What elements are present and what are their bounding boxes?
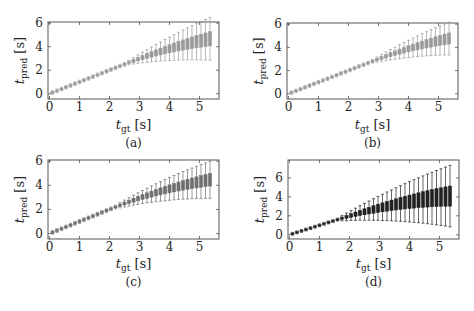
box [114, 206, 117, 208]
box [372, 206, 375, 213]
box [136, 196, 139, 200]
box [327, 222, 330, 224]
box [367, 207, 370, 214]
box [344, 71, 347, 73]
box [114, 67, 117, 69]
x-axis-label: tgt [s] [355, 117, 391, 134]
box [299, 88, 302, 90]
x-tick-label: 4 [406, 240, 414, 254]
box [73, 222, 76, 224]
x-tick-label: 4 [405, 100, 413, 114]
box [411, 44, 414, 51]
box [105, 70, 108, 72]
x-axis-label: tgt [s] [116, 117, 152, 134]
box [69, 85, 72, 87]
box [339, 73, 342, 75]
box [380, 56, 383, 59]
box [394, 199, 397, 210]
x-tick-label: 0 [285, 100, 293, 114]
box [195, 177, 198, 188]
box [204, 33, 207, 47]
box [100, 212, 103, 214]
x-tick-label: 1 [76, 100, 84, 114]
x-tick-label: 5 [436, 240, 444, 254]
panel-caption: (d) [365, 275, 382, 289]
box [51, 231, 54, 233]
box [412, 194, 415, 208]
box [51, 92, 54, 94]
x-tick-label: 3 [136, 240, 144, 254]
box [318, 225, 321, 227]
box [330, 76, 333, 78]
box [420, 41, 423, 49]
box [425, 40, 428, 48]
panel-d: 0123450246tgt [s]tpred [s](d) [252, 160, 459, 289]
box [123, 202, 126, 205]
box [118, 204, 121, 206]
box [127, 62, 130, 64]
box [190, 178, 193, 189]
x-tick-label: 3 [376, 240, 384, 254]
box [69, 224, 72, 226]
box [362, 64, 365, 66]
box [64, 226, 67, 228]
box [417, 193, 420, 208]
box [87, 77, 90, 79]
x-tick-label: 0 [286, 240, 294, 254]
panel-caption: (c) [125, 275, 141, 289]
box [96, 213, 99, 215]
box [109, 208, 112, 210]
x-tick-label: 3 [375, 100, 383, 114]
box [154, 50, 157, 56]
y-tick-label: 4 [35, 40, 43, 54]
x-tick-label: 5 [196, 240, 204, 254]
panel-caption: (a) [125, 136, 142, 150]
box [150, 191, 153, 197]
x-tick-label: 2 [346, 240, 354, 254]
y-tick-label: 6 [35, 154, 43, 168]
box [168, 185, 171, 193]
panel-b: 0123450246tgt [s]tpred [s](b) [251, 17, 458, 150]
box [172, 183, 175, 192]
box [190, 37, 193, 49]
box [105, 210, 108, 212]
box [421, 192, 424, 208]
box [443, 34, 446, 45]
x-tick-label: 1 [316, 240, 324, 254]
box [385, 201, 388, 211]
box [141, 195, 144, 200]
box [438, 35, 441, 45]
box [353, 67, 356, 69]
y-tick-label: 4 [275, 190, 283, 204]
box [429, 38, 432, 47]
x-tick-label: 4 [166, 100, 174, 114]
box [399, 198, 402, 210]
box [87, 217, 90, 219]
y-tick-label: 0 [35, 227, 43, 241]
box [150, 52, 153, 58]
box [145, 193, 148, 198]
x-tick-label: 1 [76, 240, 84, 254]
box [291, 233, 294, 235]
y-tick-label: 0 [274, 87, 282, 101]
box [326, 78, 329, 80]
box [447, 33, 450, 44]
box [82, 219, 85, 221]
box [309, 227, 312, 229]
y-tick-label: 0 [275, 228, 283, 242]
y-axis-label: tpred [s] [12, 176, 29, 223]
box [375, 58, 378, 60]
box [177, 41, 180, 51]
box [340, 217, 343, 219]
box [381, 203, 384, 212]
box [304, 229, 307, 231]
box [195, 36, 198, 48]
box [349, 214, 352, 218]
box [317, 81, 320, 83]
y-tick-label: 6 [275, 171, 283, 185]
box [335, 74, 338, 76]
box [204, 175, 207, 187]
box [127, 200, 130, 203]
y-tick-label: 2 [35, 63, 43, 77]
box [145, 54, 148, 59]
